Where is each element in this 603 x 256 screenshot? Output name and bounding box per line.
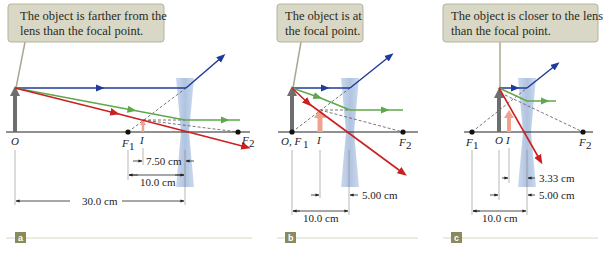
callout-text-line1: The object is at (285, 9, 362, 23)
ray-green (15, 88, 132, 110)
focal-point-f2 (580, 129, 585, 134)
dashed-ray-extension (128, 88, 186, 132)
dimension-focal-length: 10.0 cm (140, 176, 176, 188)
label-f1: F (121, 137, 129, 149)
svg-text:1: 1 (129, 140, 135, 152)
callout-text-line2: the focal point. (285, 24, 360, 38)
panel-a: The object is farther from the lens than… (6, 4, 255, 243)
focal-point-f1 (289, 129, 294, 134)
label-object-f1: O, F (281, 135, 301, 147)
label-image: I (139, 134, 145, 146)
callout-text-line1: The object is farther from the (20, 9, 167, 23)
focal-point-f2 (400, 129, 405, 134)
callout-pointer (293, 42, 301, 88)
dimension-focal-length: 10.0 cm (303, 212, 339, 224)
dimension-focal-length: 10.0 cm (482, 212, 518, 224)
svg-text:2: 2 (249, 137, 255, 149)
focal-point-f2 (235, 129, 240, 134)
label-image: I (505, 134, 511, 146)
svg-text:b: b (288, 233, 294, 243)
focal-point-f1 (125, 129, 130, 134)
svg-text:1: 1 (303, 138, 309, 150)
callout-pointer (16, 42, 25, 88)
dimension-object-distance: 5.00 cm (539, 189, 575, 201)
label-f1: F (465, 136, 473, 148)
svg-text:1: 1 (473, 139, 479, 151)
dimension-image-distance: 7.50 cm (146, 155, 182, 167)
dimension-image-distance: 5.00 cm (362, 189, 398, 201)
label-f2: F (241, 134, 249, 146)
callout-text-line2: lens than the focal point. (20, 24, 143, 38)
dimension-object-distance: 30.0 cm (82, 195, 118, 207)
dashed-ray-extension (143, 120, 238, 132)
focal-point-f1 (469, 129, 474, 134)
svg-text:c: c (454, 233, 459, 243)
svg-text:2: 2 (586, 139, 592, 151)
svg-text:2: 2 (406, 139, 412, 151)
callout-text-line2: than the focal point. (451, 24, 551, 38)
callout-text-line1: The object is closer to the lens (451, 9, 603, 23)
dimension-image-distance: 3.33 cm (539, 172, 575, 184)
ray-red (15, 88, 115, 113)
label-f2: F (398, 136, 406, 148)
label-f2: F (578, 136, 586, 148)
ray-diagram-figure: The object is farther from the lens than… (0, 0, 603, 256)
panel-b: The object is at the focal point. O, F 1… (277, 4, 418, 243)
label-object: O (11, 135, 19, 147)
label-object: O (495, 134, 503, 146)
panel-c: The object is closer to the lens than th… (443, 4, 603, 243)
label-image: I (316, 134, 322, 146)
